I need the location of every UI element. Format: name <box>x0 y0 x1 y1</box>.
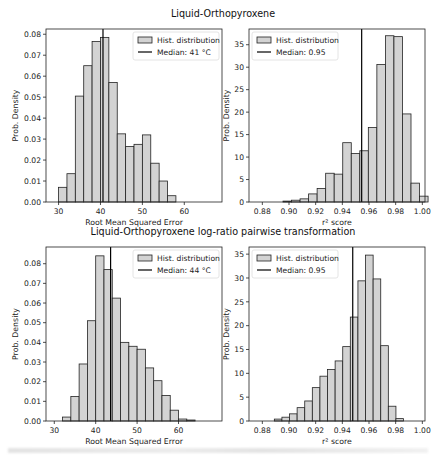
histogram-bar <box>368 127 377 202</box>
y-tick-label: 0.05 <box>24 93 41 102</box>
legend-median-label: Median: 0.95 <box>276 48 326 57</box>
x-tick-label: 50 <box>132 426 142 435</box>
histogram-bar <box>377 64 386 202</box>
y-tick-label: 25 <box>234 298 244 307</box>
x-tick-label: 60 <box>174 426 184 435</box>
y-tick-label: 0.07 <box>24 51 41 60</box>
y-tick-label: 0.08 <box>24 259 41 268</box>
y-tick-label: 0.02 <box>24 156 41 165</box>
y-tick-label: 10 <box>234 369 244 378</box>
y-tick-label: 20 <box>234 108 244 117</box>
legend: Hist. distributionMedian: 0.95 <box>252 32 339 60</box>
y-tick-label: 0.07 <box>24 279 41 288</box>
histogram-bar <box>388 406 396 421</box>
histogram-bar <box>335 361 343 421</box>
histogram-bar <box>134 144 142 202</box>
histogram-bar <box>328 370 336 421</box>
legend: Hist. distributionMedian: 0.95 <box>252 250 339 278</box>
legend-median-label: Median: 44 °C <box>157 266 211 275</box>
legend-hist-label: Hist. distribution <box>276 254 339 263</box>
histogram-bar <box>84 66 92 202</box>
histogram-bar <box>154 381 162 421</box>
histogram-bar <box>63 417 71 421</box>
histogram-panel-3: 0.880.900.920.940.960.981.00051015202530… <box>222 247 431 446</box>
x-tick-label: 0.88 <box>254 207 271 216</box>
y-tick-label: 25 <box>234 85 244 94</box>
histogram-bar <box>96 256 104 421</box>
y-tick-label: 0.06 <box>24 299 41 308</box>
y-tick-label: 15 <box>234 130 244 139</box>
y-tick-label: 20 <box>234 321 244 330</box>
x-tick-label: 0.90 <box>281 207 298 216</box>
histogram-bar <box>117 134 125 202</box>
histogram-bar <box>170 410 178 421</box>
histogram-bar <box>366 255 374 421</box>
x-tick-label: 0.98 <box>387 426 404 435</box>
y-tick-label: 15 <box>234 345 244 354</box>
histogram-bar <box>137 349 145 421</box>
histogram-bar <box>100 37 108 202</box>
y-tick-label: 35 <box>234 250 244 259</box>
histogram-bar <box>142 135 150 202</box>
histogram-bar <box>381 346 389 421</box>
x-axis-label: r² score <box>322 437 352 446</box>
y-tick-label: 30 <box>234 274 244 283</box>
x-tick-label: 30 <box>54 207 64 216</box>
y-tick-label: 5 <box>239 393 244 402</box>
y-tick-label: 30 <box>234 63 244 72</box>
y-tick-label: 0 <box>239 417 244 426</box>
y-tick-label: 0.03 <box>24 135 41 144</box>
histogram-panel-0: 304050600.000.010.020.030.040.050.060.07… <box>11 29 222 227</box>
y-tick-label: 0 <box>239 198 244 207</box>
histogram-bar <box>305 401 313 421</box>
histogram-bar <box>92 42 100 202</box>
histogram-bar <box>309 194 318 202</box>
histogram-panel-1: 0.880.900.920.940.960.981.00051015202530… <box>222 29 431 227</box>
histogram-bar <box>373 279 381 421</box>
histogram-bar <box>145 368 153 421</box>
y-tick-label: 0.00 <box>24 198 41 207</box>
y-tick-label: 0.08 <box>24 30 41 39</box>
x-tick-label: 0.94 <box>334 426 351 435</box>
y-axis-label: Prob. Density <box>222 89 231 141</box>
x-axis-label: Root Mean Squared Error <box>85 218 184 227</box>
legend-hist-label: Hist. distribution <box>157 36 220 45</box>
histogram-bar <box>411 183 420 202</box>
histogram-bar <box>159 181 167 202</box>
histogram-bar <box>67 174 75 202</box>
histogram-bar <box>129 346 137 421</box>
y-tick-label: 0.06 <box>24 72 41 81</box>
y-tick-label: 0.02 <box>24 377 41 386</box>
y-tick-label: 0.00 <box>24 417 41 426</box>
legend-hist-swatch <box>138 37 152 43</box>
y-tick-label: 10 <box>234 153 244 162</box>
y-tick-label: 0.05 <box>24 318 41 327</box>
x-tick-label: 0.92 <box>307 426 324 435</box>
histogram-bar <box>358 281 366 421</box>
histogram-bar <box>312 388 320 421</box>
y-tick-label: 0.04 <box>24 338 41 347</box>
histogram-bar <box>59 187 67 202</box>
histogram-bar <box>151 163 159 202</box>
x-tick-label: 0.96 <box>361 207 378 216</box>
y-tick-label: 5 <box>239 175 244 184</box>
blurred-caption <box>8 448 428 453</box>
legend-hist-label: Hist. distribution <box>157 254 220 263</box>
y-tick-label: 0.01 <box>24 397 41 406</box>
y-axis-label: Prob. Density <box>11 89 20 141</box>
histogram-bar <box>350 317 358 421</box>
y-axis-label: Prob. Density <box>11 308 20 360</box>
histogram-bar <box>109 82 117 202</box>
legend-hist-label: Hist. distribution <box>276 36 339 45</box>
legend-median-label: Median: 41 °C <box>157 48 211 57</box>
x-tick-label: 1.00 <box>414 207 431 216</box>
x-tick-label: 40 <box>91 426 101 435</box>
y-tick-label: 0.04 <box>24 114 41 123</box>
y-tick-label: 0.01 <box>24 177 41 186</box>
histogram-bar <box>71 396 79 421</box>
histogram-bar <box>320 376 328 421</box>
legend-median-label: Median: 0.95 <box>276 266 326 275</box>
figure-canvas: 304050600.000.010.020.030.040.050.060.07… <box>0 0 446 462</box>
legend: Hist. distributionMedian: 41 °C <box>133 32 220 60</box>
x-tick-label: 0.98 <box>387 207 404 216</box>
